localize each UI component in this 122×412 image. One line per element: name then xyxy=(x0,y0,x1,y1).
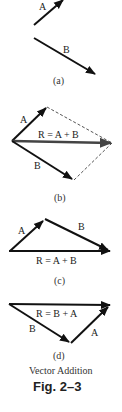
resultant-arrow xyxy=(12,141,111,143)
vector-b-arrow xyxy=(12,141,72,179)
resultant-label: R = B + A xyxy=(36,308,78,319)
figure-number: Fig. 2–3 xyxy=(33,379,81,394)
vector-a-label: A xyxy=(91,327,99,338)
resultant-arrow xyxy=(9,304,110,305)
panel-d-caption: (d) xyxy=(53,350,65,362)
vector-b-label: B xyxy=(34,160,41,171)
resultant-label: R = A + B xyxy=(38,129,79,140)
vector-b-label: B xyxy=(63,44,70,55)
panel-b: A R = A + B B (b) xyxy=(12,107,112,204)
panel-c: A B R = A + B (c) xyxy=(9,219,110,287)
vector-b-arrow xyxy=(45,219,108,250)
panel-a: A B (a) xyxy=(34,0,95,87)
vector-a-label: A xyxy=(18,225,26,236)
panel-b-caption: (b) xyxy=(54,192,66,204)
vector-a-label: A xyxy=(39,1,47,12)
panel-c-caption: (c) xyxy=(54,275,65,287)
resultant-label: R = A + B xyxy=(36,255,77,266)
vector-addition-figure: A B (a) A R = A + B B (b) A B R = A + B … xyxy=(0,0,122,412)
vector-b-label: B xyxy=(78,221,85,232)
vector-a-label: A xyxy=(20,114,28,125)
figure-title: Vector Addition xyxy=(29,365,93,376)
vector-a-arrow xyxy=(10,221,43,251)
vector-b-label: B xyxy=(29,323,36,334)
panel-a-caption: (a) xyxy=(53,75,64,87)
dashed-b-parallel xyxy=(74,143,112,180)
panel-d: R = B + A B A (d) xyxy=(9,304,110,362)
